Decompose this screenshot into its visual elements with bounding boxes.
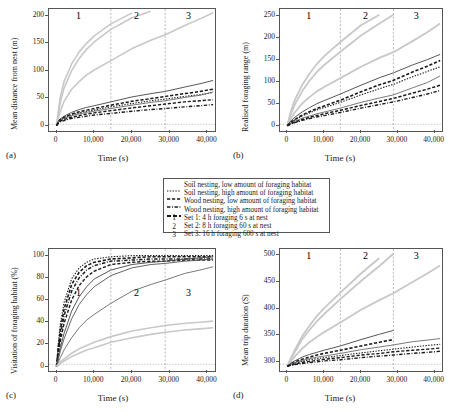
- data-series-line: [287, 266, 440, 367]
- x-tick-mark: [360, 370, 361, 373]
- set-marker-3: 3: [186, 10, 191, 21]
- y-tick-label: 200: [253, 32, 275, 41]
- panel-a-x-axis-label: Time (s): [0, 153, 226, 163]
- x-tick-label: 40,000: [186, 135, 226, 144]
- y-tick-label: 100: [22, 250, 44, 259]
- y-tick-label: 100: [253, 76, 275, 85]
- set-marker-1: 1: [76, 10, 81, 21]
- x-tick-mark: [360, 130, 361, 133]
- x-tick-label: 20,000: [111, 375, 151, 384]
- legend-item: Soil nesting, low amount of foraging hab…: [167, 181, 326, 189]
- x-tick-label: 40,000: [186, 375, 226, 384]
- x-tick-label: 40,000: [414, 375, 453, 384]
- x-tick-mark: [131, 130, 132, 133]
- x-tick-label: 30,000: [149, 375, 189, 384]
- y-tick-mark: [45, 125, 48, 126]
- data-series-line: [57, 100, 214, 126]
- panel-a-tag: (a): [6, 150, 16, 160]
- x-tick-mark: [286, 370, 287, 373]
- y-tick-label: 0: [22, 361, 44, 370]
- x-tick-label: 0: [36, 135, 76, 144]
- y-tick-label: 350: [253, 329, 275, 338]
- set-marker-1: 1: [306, 250, 311, 261]
- panel-b-tag: (b): [233, 150, 244, 160]
- y-tick-mark: [45, 255, 48, 256]
- x-tick-mark: [434, 130, 435, 133]
- y-tick-mark: [45, 70, 48, 71]
- data-series-line: [287, 15, 379, 126]
- y-tick-mark: [45, 366, 48, 367]
- y-tick-label: 250: [253, 10, 275, 19]
- panel-b-plot-area: [279, 8, 443, 132]
- y-tick-label: 150: [22, 37, 44, 46]
- legend-item-label: Soil nesting, high amount of foraging ha…: [184, 189, 313, 197]
- data-series-line: [287, 85, 440, 126]
- set-marker-2: 2: [134, 287, 139, 298]
- data-series-line: [57, 259, 214, 367]
- legend-item: Wood nesting, high amount of foraging ha…: [167, 206, 326, 214]
- y-tick-label: 20: [22, 338, 44, 347]
- y-tick-mark: [276, 59, 279, 60]
- y-tick-label: 150: [253, 54, 275, 63]
- y-tick-mark: [45, 42, 48, 43]
- y-tick-mark: [45, 321, 48, 322]
- legend-line-swatch: [167, 197, 181, 205]
- data-series-line: [57, 92, 214, 126]
- x-tick-label: 10,000: [73, 375, 113, 384]
- y-tick-mark: [276, 37, 279, 38]
- data-series-line: [57, 328, 214, 367]
- panel-c-plot-area: [48, 248, 216, 372]
- x-tick-mark: [56, 130, 57, 133]
- legend-set-label: Set 2: 8 h foraging 60 s at nest: [184, 222, 271, 230]
- x-tick-label: 0: [266, 375, 306, 384]
- y-tick-label: 0: [253, 120, 275, 129]
- legend-sets-list: 1Set 1: 4 h foraging 6 s at nest2Set 2: …: [167, 214, 326, 239]
- y-tick-label: 80: [22, 272, 44, 281]
- legend-set-item: 3Set 3: 16 h foraging 600 s at nest: [167, 230, 326, 238]
- y-tick-label: 40: [22, 316, 44, 325]
- x-tick-mark: [93, 370, 94, 373]
- legend-series-list: Soil nesting, low amount of foraging hab…: [167, 181, 326, 214]
- legend-item-label: Wood nesting, low amount of foraging hab…: [184, 197, 317, 205]
- y-tick-mark: [276, 334, 279, 335]
- set-marker-3: 3: [414, 250, 419, 261]
- y-tick-label: 50: [253, 98, 275, 107]
- legend-set-item: 1Set 1: 4 h foraging 6 s at nest: [167, 214, 326, 222]
- x-tick-label: 0: [36, 375, 76, 384]
- x-tick-mark: [206, 130, 207, 133]
- panel-a: Mean distance from nest (m) Time (s) (a)…: [0, 0, 226, 180]
- legend-item-label: Wood nesting, high amount of foraging ha…: [184, 206, 319, 214]
- x-tick-label: 20,000: [111, 135, 151, 144]
- x-tick-mark: [323, 130, 324, 133]
- legend-item-label: Soil nesting, low amount of foraging hab…: [184, 181, 311, 189]
- x-tick-label: 40,000: [414, 135, 453, 144]
- x-tick-label: 10,000: [303, 135, 343, 144]
- y-tick-mark: [276, 125, 279, 126]
- legend: Soil nesting, low amount of foraging hab…: [163, 178, 330, 233]
- panel-d-x-axis-label: Time (s): [227, 393, 453, 403]
- panel-b-x-axis-label: Time (s): [227, 153, 453, 163]
- set-marker-3: 3: [186, 287, 191, 298]
- y-tick-mark: [276, 361, 279, 362]
- set-marker-1: 1: [76, 287, 81, 298]
- set-marker-1: 1: [306, 10, 311, 21]
- legend-set-key: 3: [167, 230, 181, 239]
- y-tick-mark: [276, 254, 279, 255]
- x-tick-label: 0: [266, 135, 306, 144]
- panel-c-y-axis-label: Visitation of foraging habitat (%): [10, 267, 19, 374]
- panel-c: Visitation of foraging habitat (%) Time …: [0, 240, 226, 415]
- x-tick-mark: [93, 130, 94, 133]
- x-tick-label: 10,000: [73, 135, 113, 144]
- data-series-line: [57, 257, 214, 367]
- data-series-line: [57, 80, 214, 125]
- y-tick-mark: [45, 15, 48, 16]
- legend-set-label: Set 3: 16 h foraging 600 s at nest: [184, 230, 279, 238]
- panel-d-plot-area: [279, 248, 443, 372]
- y-tick-mark: [276, 281, 279, 282]
- y-tick-label: 100: [22, 65, 44, 74]
- x-tick-label: 20,000: [340, 135, 380, 144]
- panel-a-plot-area: [48, 8, 216, 132]
- data-series-line: [57, 260, 214, 366]
- x-tick-mark: [323, 370, 324, 373]
- data-series-line: [57, 321, 214, 366]
